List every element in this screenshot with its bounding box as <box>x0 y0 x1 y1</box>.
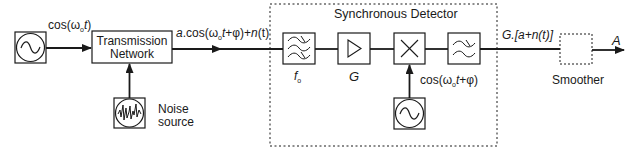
reference-signal-label: cos(ωot+φ) <box>420 74 478 91</box>
smoother-block <box>560 34 592 64</box>
input-signal-label: cos(ωot) <box>48 19 91 36</box>
bandpass-center-frequency-label: fo <box>294 70 301 87</box>
noise-source-label: Noise source <box>158 103 194 129</box>
received-signal-label: a.cos(ωot+φ)+n(t) <box>176 27 269 44</box>
amplifier-gain-label: G <box>349 70 359 83</box>
amplifier-triangle-icon <box>348 40 361 57</box>
synchronous-detector-title: Synchronous Detector <box>334 8 458 21</box>
bandpass-filter-icon <box>288 36 310 59</box>
output-label: A <box>612 34 621 47</box>
detector-output-label: G.[a+n(t)] <box>502 29 553 42</box>
lowpass-filter-block <box>448 33 480 64</box>
amplifier-block <box>338 33 370 64</box>
sine-wave-icon <box>21 42 40 53</box>
multiplier-block <box>394 33 425 64</box>
transmission-network-label: Transmission Network <box>92 35 172 61</box>
noise-icon <box>118 104 141 120</box>
reference-oscillator-block <box>394 98 425 129</box>
lowpass-filter-icon <box>453 40 475 57</box>
bandpass-filter-block <box>283 33 315 64</box>
noise-source-block <box>114 98 145 128</box>
arrow-head <box>212 45 222 53</box>
source-oscillator-block <box>15 32 46 63</box>
sine-wave-icon <box>400 108 419 119</box>
smoother-label: Smoother <box>552 74 604 87</box>
multiply-icon <box>401 40 418 57</box>
diagram-canvas <box>0 0 638 155</box>
